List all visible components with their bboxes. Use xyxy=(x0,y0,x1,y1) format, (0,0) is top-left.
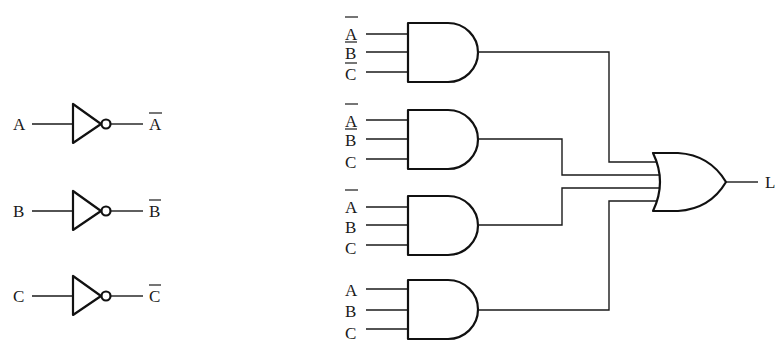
inverter-c-bubble xyxy=(102,292,111,301)
and-gate-4-body xyxy=(408,280,478,339)
and3-input-b: B xyxy=(345,218,356,237)
logic-circuit-diagram: A A B B C C A B C A xyxy=(0,0,782,357)
and1-input-b: B xyxy=(345,44,356,63)
inverter-a-triangle xyxy=(73,104,101,143)
and-gate-3: A B C xyxy=(345,190,478,258)
and1-input-c: C xyxy=(345,65,356,84)
inverter-c: C C xyxy=(13,276,161,315)
and4-input-b: B xyxy=(345,302,356,321)
inverter-c-triangle xyxy=(73,276,101,315)
and2-input-a: A xyxy=(345,112,358,131)
inverter-c-input-label: C xyxy=(13,287,24,306)
and1-input-a: A xyxy=(345,25,358,44)
and4-input-c: C xyxy=(345,324,356,343)
inverter-b-bubble xyxy=(102,207,111,216)
and-gate-1: A B C xyxy=(345,17,478,84)
and-gate-2-body xyxy=(408,110,478,169)
output-label-l: L xyxy=(765,173,775,192)
and2-input-c: C xyxy=(345,153,356,172)
inverter-b-output-label: B xyxy=(149,202,160,221)
and2-input-b: B xyxy=(345,131,356,150)
and4-input-a: A xyxy=(345,281,358,300)
routing-wires xyxy=(478,52,664,310)
or-gate: L xyxy=(653,153,775,211)
inverter-a-bubble xyxy=(102,120,111,129)
and-gate-3-body xyxy=(408,196,478,255)
inverter-a-input-label: A xyxy=(13,115,26,134)
and-gate-4: A B C xyxy=(345,280,478,343)
inverter-a-output-label: A xyxy=(149,115,162,134)
and3-input-c: C xyxy=(345,239,356,258)
and3-input-a: A xyxy=(345,198,358,217)
inverter-b: B B xyxy=(13,191,161,230)
and-gate-1-body xyxy=(408,23,478,82)
inverter-a: A A xyxy=(13,104,162,143)
inverter-c-output-label: C xyxy=(149,287,160,306)
or-gate-body xyxy=(653,153,726,211)
inverter-b-input-label: B xyxy=(13,202,24,221)
and-gate-2: A B C xyxy=(345,104,478,172)
inverter-b-triangle xyxy=(73,191,101,230)
